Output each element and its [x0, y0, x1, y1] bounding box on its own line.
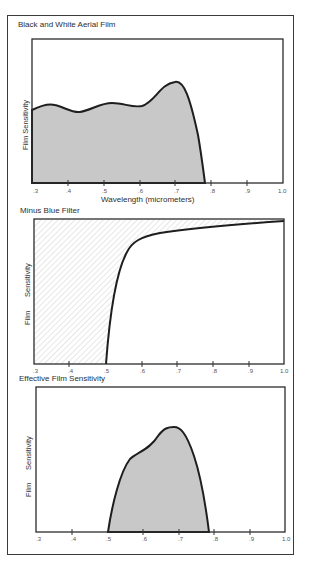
tick-label: .3	[33, 368, 39, 374]
chart2-plot: .3 .4 .5 .6 .7 .8 .9 1.0 Film Sensitivit…	[23, 219, 289, 374]
tick-label: .4	[66, 188, 72, 194]
tick-label: .4	[71, 536, 77, 542]
tick-label: .8	[210, 188, 216, 194]
chart3-ylabel-film: Film	[24, 483, 33, 497]
chart2-ylabel-sensitivity: Sensitivity	[23, 263, 32, 297]
tick-label: .8	[213, 536, 219, 542]
chart2-ylabel-film: Film	[23, 311, 32, 325]
chart3-ylabel-sensitivity: Sensitivity	[24, 436, 33, 470]
tick-label: 1.0	[278, 188, 287, 194]
tick-label: .7	[174, 188, 180, 194]
tick-label: .5	[104, 368, 110, 374]
tick-label: .6	[142, 536, 148, 542]
tick-label: .3	[36, 536, 42, 542]
chart3-plot: .3 .4 .5 .6 .7 .8 .9 1.0 Film Sensitivit…	[24, 387, 291, 542]
tick-label: .7	[176, 368, 182, 374]
tick-label: 1.0	[280, 368, 289, 374]
chart1-plot: .3 .4 .5 .6 .7 .8 .9 1.0 Wavelength (mic…	[21, 39, 287, 204]
tick-label: .9	[249, 536, 255, 542]
tick-label: .7	[178, 536, 184, 542]
chart1-ylabel: Film Sensitivity	[21, 100, 30, 150]
tick-label: .4	[68, 368, 74, 374]
tick-label: .5	[102, 188, 108, 194]
tick-label: 1.0	[282, 536, 291, 542]
tick-label: .6	[140, 368, 146, 374]
tick-label: .5	[106, 536, 112, 542]
tick-label: .8	[212, 368, 218, 374]
charts-canvas: .3 .4 .5 .6 .7 .8 .9 1.0 Wavelength (mic…	[0, 0, 309, 564]
tick-label: .3	[33, 188, 39, 194]
tick-label: .6	[138, 188, 144, 194]
tick-label: .9	[245, 188, 251, 194]
chart1-xlabel: Wavelength (micrometers)	[101, 195, 195, 204]
tick-label: .9	[248, 368, 254, 374]
